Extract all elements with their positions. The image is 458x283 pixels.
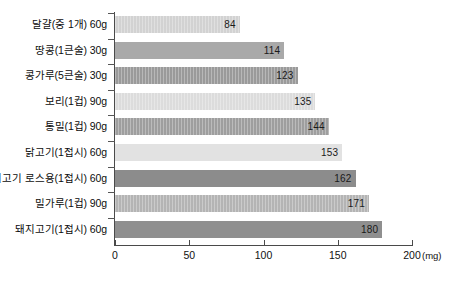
category-tick	[108, 167, 115, 168]
value-tick-label: 150	[329, 249, 347, 261]
bar-chart: 84114123135144153162171180 달걀(중 1개) 60g땅…	[0, 0, 458, 283]
bar-row: 144	[115, 114, 412, 140]
category-label: 밀가루(1컵) 90g	[35, 191, 107, 217]
bar-row: 84	[115, 12, 412, 38]
bar-row: 171	[115, 191, 412, 217]
value-tick-label: 0	[112, 249, 118, 261]
bar-value-label: 114	[115, 42, 284, 59]
bar-row: 153	[115, 140, 412, 166]
value-tick	[264, 240, 265, 246]
value-tick	[189, 240, 190, 246]
category-tick	[108, 13, 115, 14]
bar-row: 180	[115, 217, 412, 243]
category-label: 땅콩(1큰술) 30g	[35, 38, 107, 64]
bar-row: 114	[115, 38, 412, 64]
category-label: 쇠고기 로스용(1접시) 60g	[0, 166, 107, 192]
category-label: 보리(1컵) 90g	[45, 89, 107, 115]
bar-value-label: 153	[115, 144, 342, 161]
bar-value-label: 135	[115, 93, 315, 110]
category-tick	[108, 115, 115, 116]
category-label: 콩가루(5큰술) 30g	[25, 63, 107, 89]
bar-row: 123	[115, 63, 412, 89]
category-tick	[108, 218, 115, 219]
value-tick-label: 50	[183, 249, 195, 261]
category-label: 통밀(1컵) 90g	[45, 114, 107, 140]
bar-value-label: 180	[115, 221, 382, 238]
category-tick	[108, 39, 115, 40]
axis-unit-label: (mg)	[422, 250, 442, 261]
plot-area: 84114123135144153162171180	[115, 12, 412, 244]
value-tick-label: 200	[403, 249, 421, 261]
bar-row: 162	[115, 166, 412, 192]
category-tick	[108, 141, 115, 142]
bar-row: 135	[115, 89, 412, 115]
bar-value-label: 144	[115, 118, 329, 135]
category-label: 돼지고기(1접시) 60g	[15, 217, 107, 243]
bar-value-label: 123	[115, 67, 298, 84]
category-tick	[108, 90, 115, 91]
category-label: 달걀(중 1개) 60g	[32, 12, 107, 38]
category-label: 닭고기(1접시) 60g	[25, 140, 107, 166]
value-tick	[338, 240, 339, 246]
bar-value-label: 162	[115, 170, 356, 187]
category-tick	[108, 64, 115, 65]
value-tick	[115, 240, 116, 246]
bar-value-label: 171	[115, 195, 369, 212]
value-tick	[412, 240, 413, 246]
category-tick	[108, 192, 115, 193]
value-tick-label: 100	[255, 249, 273, 261]
bar-value-label: 84	[115, 16, 240, 33]
